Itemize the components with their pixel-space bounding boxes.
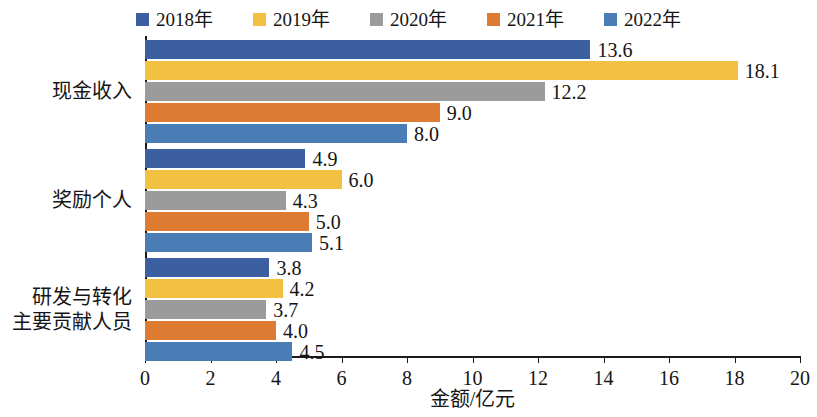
legend-swatch-icon: [370, 13, 383, 26]
legend-swatch-icon: [253, 13, 266, 26]
plot-area: 02468101214161820 13.618.112.29.08.04.96…: [145, 36, 800, 356]
bar[interactable]: [145, 170, 342, 189]
legend-item-label: 2019年: [273, 10, 330, 29]
bar-row: 12.2: [145, 82, 800, 101]
bar[interactable]: [145, 212, 309, 231]
bar-value-label: 4.2: [283, 278, 315, 298]
bar-row: 3.8: [145, 258, 800, 277]
bar[interactable]: [145, 191, 286, 210]
bar[interactable]: [145, 103, 440, 122]
legend-swatch-icon: [604, 13, 617, 26]
bar-value-label: 4.5: [292, 341, 324, 361]
x-axis-tick-label: 4: [271, 367, 281, 389]
bar-row: 9.0: [145, 103, 800, 122]
legend-item[interactable]: 2018年: [136, 10, 213, 29]
bar-value-label: 12.2: [545, 81, 587, 101]
bar-value-label: 3.7: [266, 299, 298, 319]
bar-row: 13.6: [145, 40, 800, 59]
bar-value-label: 8.0: [407, 123, 439, 143]
x-axis-tick-label: 14: [594, 367, 614, 389]
bar-row: 4.9: [145, 149, 800, 168]
bar[interactable]: [145, 233, 312, 252]
category-label-line: 现金收入: [0, 79, 132, 104]
bar-row: 3.7: [145, 300, 800, 319]
bar-group: 3.84.23.74.04.5: [145, 258, 800, 361]
x-axis-tick-label: 18: [725, 367, 745, 389]
legend-swatch-icon: [487, 13, 500, 26]
bar[interactable]: [145, 258, 269, 277]
bar-row: 5.0: [145, 212, 800, 231]
bar-row: 4.5: [145, 342, 800, 361]
bar[interactable]: [145, 321, 276, 340]
bar-group: 4.96.04.35.05.1: [145, 149, 800, 252]
bar[interactable]: [145, 40, 590, 59]
category-label: 奖励个人: [0, 188, 132, 213]
legend-item[interactable]: 2022年: [604, 10, 681, 29]
bar-value-label: 3.8: [269, 257, 301, 277]
bar-row: 8.0: [145, 124, 800, 143]
x-axis-tick-label: 6: [337, 367, 347, 389]
chart-legend: 2018年2019年2020年2021年2022年: [0, 6, 817, 32]
x-axis-tick-label: 12: [528, 367, 548, 389]
x-axis-title: 金额/亿元: [145, 388, 800, 410]
x-axis-tick-label: 8: [402, 367, 412, 389]
bar-value-label: 4.3: [286, 190, 318, 210]
legend-item[interactable]: 2021年: [487, 10, 564, 29]
legend-item-label: 2022年: [624, 10, 681, 29]
x-axis-tick-label: 20: [790, 367, 810, 389]
bar-group: 13.618.112.29.08.0: [145, 40, 800, 143]
category-label-line: 主要贡献人员: [0, 310, 132, 335]
legend-item-label: 2020年: [390, 10, 447, 29]
legend-swatch-icon: [136, 13, 149, 26]
bar-value-label: 4.9: [305, 148, 337, 168]
legend-item[interactable]: 2019年: [253, 10, 330, 29]
bar[interactable]: [145, 124, 407, 143]
bar-value-label: 13.6: [590, 39, 632, 59]
bar-row: 4.2: [145, 279, 800, 298]
bar-chart: 2018年2019年2020年2021年2022年 现金收入奖励个人研发与转化主…: [0, 0, 817, 417]
bar-row: 5.1: [145, 233, 800, 252]
bar-row: 18.1: [145, 61, 800, 80]
bar[interactable]: [145, 82, 545, 101]
legend-item-label: 2018年: [156, 10, 213, 29]
bar-value-label: 5.1: [312, 232, 344, 252]
bar[interactable]: [145, 149, 305, 168]
category-label: 研发与转化主要贡献人员: [0, 285, 132, 335]
bar-value-label: 18.1: [738, 60, 780, 80]
bar[interactable]: [145, 300, 266, 319]
x-axis-tick: [800, 356, 801, 363]
x-axis-tick-label: 0: [140, 367, 150, 389]
x-axis-tick-label: 10: [463, 367, 483, 389]
x-axis-tick-label: 16: [659, 367, 679, 389]
category-axis-labels: 现金收入奖励个人研发与转化主要贡献人员: [0, 36, 138, 356]
bar[interactable]: [145, 279, 283, 298]
bar-row: 4.3: [145, 191, 800, 210]
bar-row: 4.0: [145, 321, 800, 340]
bar-value-label: 4.0: [276, 320, 308, 340]
bar-row: 6.0: [145, 170, 800, 189]
legend-item-label: 2021年: [507, 10, 564, 29]
bar-value-label: 6.0: [342, 169, 374, 189]
bar[interactable]: [145, 342, 292, 361]
category-label-line: 研发与转化: [0, 285, 132, 310]
bar-value-label: 5.0: [309, 211, 341, 231]
bar-value-label: 9.0: [440, 102, 472, 122]
legend-item[interactable]: 2020年: [370, 10, 447, 29]
category-label-line: 奖励个人: [0, 188, 132, 213]
bar[interactable]: [145, 61, 738, 80]
x-axis-tick-label: 2: [206, 367, 216, 389]
category-label: 现金收入: [0, 79, 132, 104]
